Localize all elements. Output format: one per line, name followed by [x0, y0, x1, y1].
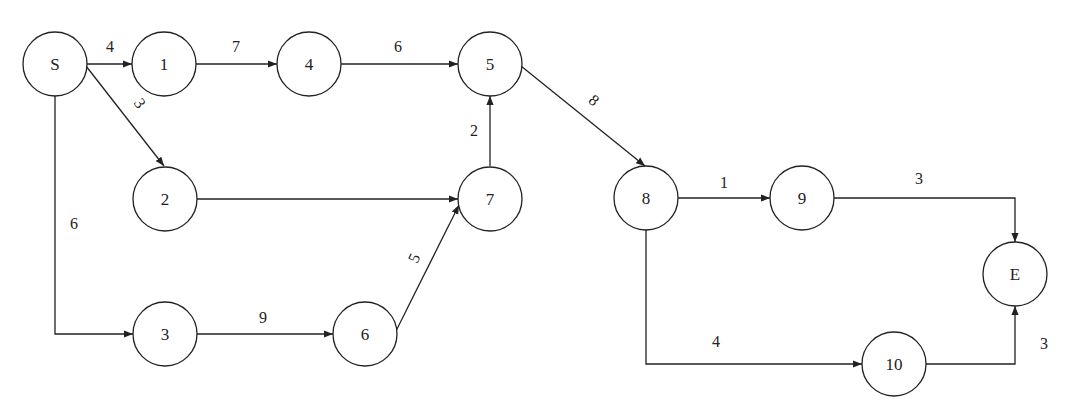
edge-weight-8-9: 1: [720, 174, 728, 191]
node-label-2: 2: [161, 190, 170, 209]
edge-weight-4-5: 6: [394, 38, 402, 55]
node-4: 4: [277, 32, 341, 96]
edge-weight-S-1: 4: [106, 38, 114, 55]
node-10: 10: [862, 332, 926, 396]
node-5: 5: [458, 32, 522, 96]
node-9: 9: [770, 166, 834, 230]
node-label-7: 7: [486, 190, 495, 209]
node-label-9: 9: [798, 189, 807, 208]
node-label-6: 6: [361, 325, 370, 344]
node-7: 7: [458, 167, 522, 231]
node-S: S: [23, 32, 87, 96]
node-1: 1: [132, 32, 196, 96]
edge-weight-5-8: 8: [585, 91, 602, 109]
edge-10-E: [926, 306, 1015, 364]
edge-weight-6-7: 5: [405, 251, 424, 265]
edge-6-7: [396, 205, 459, 331]
node-8: 8: [614, 166, 678, 230]
edge-weight-3-6: 9: [259, 309, 267, 326]
edge-weight-S-3: 6: [70, 215, 78, 232]
node-label-8: 8: [642, 189, 651, 208]
node-label-S: S: [50, 55, 59, 74]
edge-weight-S-2: 3: [131, 95, 150, 111]
edge-8-10: [646, 230, 862, 364]
node-label-4: 4: [305, 55, 314, 74]
node-label-5: 5: [486, 55, 495, 74]
node-label-3: 3: [161, 325, 170, 344]
node-label-10: 10: [886, 355, 903, 374]
edge-weight-8-10: 4: [712, 333, 720, 350]
edge-5-8: [521, 66, 645, 166]
edge-weight-9-E: 3: [915, 170, 923, 187]
edge-S-3: [55, 96, 133, 334]
node-label-1: 1: [160, 55, 169, 74]
edge-weight-1-4: 7: [232, 38, 240, 55]
edge-9-E: [834, 198, 1015, 242]
node-E: E: [983, 242, 1047, 306]
node-label-E: E: [1010, 265, 1020, 284]
network-diagram: 4 7 6 3 6 2 9 5 8 1 3 4 3 S 1 4 5 2: [0, 0, 1073, 409]
edge-weight-7-5: 2: [470, 122, 478, 139]
node-2: 2: [133, 167, 197, 231]
diagram-svg: 4 7 6 3 6 2 9 5 8 1 3 4 3 S 1 4 5 2: [0, 0, 1073, 409]
node-3: 3: [133, 302, 197, 366]
node-6: 6: [333, 302, 397, 366]
edge-weight-10-E: 3: [1040, 335, 1048, 352]
